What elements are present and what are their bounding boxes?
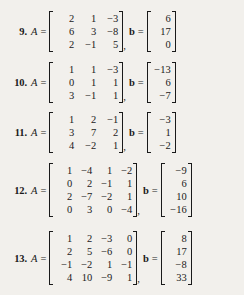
matrix-A-label: A — [30, 127, 38, 138]
matrix-cell: 1 — [93, 164, 113, 177]
matrix-cell: −1 — [93, 177, 113, 190]
matrix-A: 1 2 −3 0 2 5 −6 0 −1 −2 1 — [49, 231, 137, 285]
matrix-cell: 2 — [73, 232, 93, 245]
matrix-cell: −3 — [93, 232, 113, 245]
matrix-row: 3 −1 1 — [53, 89, 119, 102]
matrix-cell: −6 — [93, 245, 113, 258]
matrix-cell: −2 — [151, 139, 172, 152]
matrix-row: 33 — [165, 271, 188, 284]
matrix-cell: −9 — [93, 271, 113, 284]
matrix-row: 2 −7 −2 1 — [53, 190, 133, 203]
vector-b: −9 6 10 −16 — [161, 163, 192, 217]
matrix-cell: 3 — [53, 126, 75, 139]
exercise-number: 11. — [4, 127, 30, 138]
matrix-cell: −7 — [151, 89, 172, 102]
matrix-row: −2 — [151, 139, 172, 152]
matrix-cell: 4 — [53, 139, 75, 152]
matrix-row: 6 — [165, 177, 188, 190]
exercise-body: A = 1 2 −3 0 2 5 −6 0 — [30, 231, 240, 285]
matrix-A-label: A — [30, 253, 38, 264]
matrix-cell: −8 — [97, 25, 119, 38]
matrix-cell: 2 — [53, 190, 73, 203]
matrix-cell: −1 — [53, 258, 73, 271]
matrix-cell: −4 — [113, 203, 133, 216]
matrix-cell: 6 — [165, 177, 188, 190]
matrix-cell: 3 — [73, 203, 93, 216]
matrix-cell: −2 — [93, 190, 113, 203]
equals-sign: = — [38, 127, 49, 138]
matrix-row: 4 10 −9 1 — [53, 271, 133, 284]
matrix-cell: −13 — [151, 63, 172, 76]
matrix-cell: −2 — [75, 139, 97, 152]
matrix-cell: 0 — [53, 177, 73, 190]
vector-b-label: b — [142, 253, 150, 264]
matrix-cell: 1 — [75, 63, 97, 76]
matrix-cell: 1 — [75, 76, 97, 89]
matrix-row: 1 — [151, 126, 172, 139]
matrix-row: 1 2 −3 0 — [53, 232, 133, 245]
matrix-cell: 10 — [73, 271, 93, 284]
vector-b-label: b — [128, 127, 136, 138]
matrix-row: −1 −2 1 −1 — [53, 258, 133, 271]
matrix-A-label: A — [30, 77, 38, 88]
matrix-cell: 6 — [151, 76, 172, 89]
matrix-cell: 1 — [97, 139, 119, 152]
vector-b-rows: 8 17 −8 33 — [165, 231, 188, 285]
matrix-A-label: A — [30, 185, 38, 196]
matrix-row: 2 1 −3 — [53, 12, 119, 25]
equals-sign: = — [38, 253, 49, 264]
matrix-cell: 3 — [53, 89, 75, 102]
matrix-cell: −1 — [75, 38, 97, 51]
bracket-right-icon — [172, 62, 176, 103]
matrix-A-rows: 1 −4 1 −2 0 2 −1 1 2 −7 −2 — [53, 163, 133, 217]
matrix-cell: −9 — [165, 164, 188, 177]
vector-b-rows: −13 6 −7 — [151, 62, 172, 103]
vector-b: −13 6 −7 — [147, 62, 176, 103]
exercise-body: A = 2 1 −3 6 3 −8 2 — [30, 11, 240, 52]
exercise-body: A = 1 1 −3 0 1 1 3 — [30, 62, 240, 103]
bracket-right-icon — [188, 163, 192, 217]
comma-separator: , — [123, 40, 128, 51]
matrix-row: −9 — [165, 164, 188, 177]
matrix-cell: 2 — [53, 38, 75, 51]
matrix-cell: 0 — [93, 203, 113, 216]
matrix-row: −8 — [165, 258, 188, 271]
matrix-cell: 8 — [165, 232, 188, 245]
matrix-cell: 2 — [75, 113, 97, 126]
matrix-row: 0 1 1 — [53, 76, 119, 89]
matrix-A-label: A — [30, 26, 38, 37]
exercise-item: 9. A = 2 1 −3 6 3 −8 — [4, 6, 240, 58]
comma-separator: , — [137, 273, 142, 284]
matrix-row: 0 — [151, 38, 172, 51]
matrix-cell: 7 — [75, 126, 97, 139]
exercise-body: A = 1 2 −1 3 7 2 4 — [30, 112, 240, 153]
bracket-right-icon — [188, 231, 192, 285]
matrix-row: 0 2 −1 1 — [53, 177, 133, 190]
vector-b-rows: 6 17 0 — [151, 11, 172, 52]
matrix-cell: 3 — [75, 25, 97, 38]
matrix-row: −16 — [165, 203, 188, 216]
matrix-row: 1 −4 1 −2 — [53, 164, 133, 177]
matrix-cell: 1 — [97, 89, 119, 102]
matrix-cell: −2 — [73, 258, 93, 271]
matrix-row: 2 5 −6 0 — [53, 245, 133, 258]
matrix-A: 1 −4 1 −2 0 2 −1 1 2 −7 −2 — [49, 163, 137, 217]
matrix-row: 6 3 −8 — [53, 25, 119, 38]
matrix-cell: 2 — [53, 245, 73, 258]
matrix-row: −13 — [151, 63, 172, 76]
matrix-row: 6 — [151, 12, 172, 25]
matrix-A: 1 2 −1 3 7 2 4 −2 1 — [49, 112, 123, 153]
matrix-cell: −4 — [73, 164, 93, 177]
vector-b-label: b — [128, 77, 136, 88]
matrix-cell: 0 — [53, 76, 75, 89]
matrix-row: 1 1 −3 — [53, 63, 119, 76]
matrix-A-rows: 1 2 −1 3 7 2 4 −2 1 — [53, 112, 119, 153]
matrix-row: 17 — [151, 25, 172, 38]
exercise-item: 10. A = 1 1 −3 0 1 1 — [4, 58, 240, 108]
vector-b-label: b — [142, 185, 150, 196]
matrix-cell: 0 — [113, 245, 133, 258]
matrix-row: 0 3 0 −4 — [53, 203, 133, 216]
matrix-row: 8 — [165, 232, 188, 245]
matrix-cell: 17 — [151, 25, 172, 38]
vector-b-rows: −3 1 −2 — [151, 112, 172, 153]
